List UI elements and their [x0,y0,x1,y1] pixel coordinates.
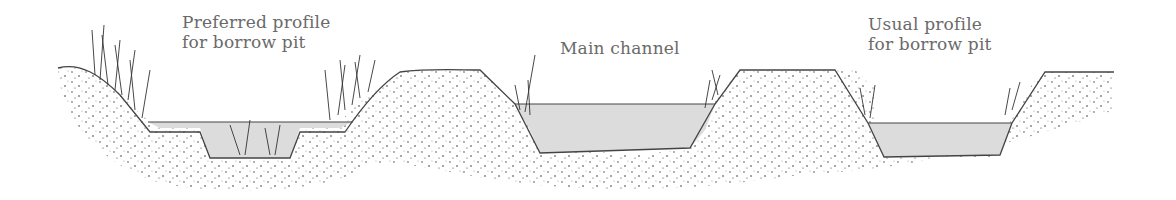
label-preferred-profile: Preferred profile for borrow pit [182,12,330,52]
water-main [515,104,715,153]
label-main-channel: Main channel [560,38,680,58]
cross-section-diagram [0,0,1176,200]
water-usual [868,123,1012,157]
label-usual-profile: Usual profile for borrow pit [868,14,992,54]
